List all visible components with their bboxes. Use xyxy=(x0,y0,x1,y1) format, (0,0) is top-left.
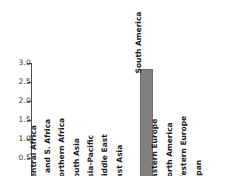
x-label-east-asia: East Asia xyxy=(116,145,124,176)
x-label-asia-pacific: Asia-Pacific xyxy=(87,135,95,176)
x-label-south-america: South America xyxy=(135,11,143,73)
x-label-middle-east: Middle East xyxy=(101,134,109,176)
x-label-south-asia: South Asia xyxy=(73,138,81,176)
plot-area: 3.0 2.5 2.0 1.5 1.0 0.5 Central Africa E… xyxy=(0,0,232,176)
x-label-north-america: North America xyxy=(166,122,174,176)
x-label-central-africa: Central Africa xyxy=(30,125,38,176)
x-label-e-and-s-africa: E. and S. Africa xyxy=(44,119,52,176)
chart-screenshot: 3.0 2.5 2.0 1.5 1.0 0.5 Central Africa E… xyxy=(0,0,232,176)
x-label-japan: Japan xyxy=(195,160,203,176)
x-label-northern-africa: Northern Africa xyxy=(58,118,66,176)
x-label-western-europe: Western Europe xyxy=(180,116,188,176)
x-label-eastern-europe: Eastern Europe xyxy=(151,119,159,176)
